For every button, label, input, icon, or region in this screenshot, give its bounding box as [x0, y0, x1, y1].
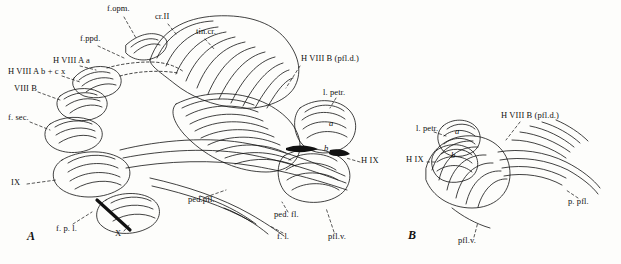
label-f-sec: f. sec. — [8, 113, 29, 122]
label-tin-cr: tin.cr. — [196, 27, 216, 36]
label-b-sublobule-panel-b: b — [451, 151, 455, 160]
label-ped-fl: ped. fl. — [274, 210, 299, 219]
label-ix-panel-a: IX — [11, 178, 20, 187]
label-x-panel-a: X — [115, 229, 121, 238]
label-l-petr-panel-b: l. petr. — [416, 124, 438, 133]
label-h-viii-b-pfl-d-panel-a: H VIII B (pfl.d.) — [301, 54, 359, 63]
label-h-viii-b-pfl-d-panel-b: H VIII B (pfl.d.) — [501, 111, 559, 120]
label-h-ix-panel-b: H IX — [406, 155, 424, 164]
label-h-viii-a-a: H VIII A a — [53, 56, 90, 65]
label-a-sublobule-panel-a: a — [329, 119, 333, 128]
label-ped-pfl: ped.pfl. — [188, 195, 215, 204]
label-a-sublobule-panel-b: a — [455, 127, 459, 136]
label-l-petr-panel-a: l. petr. — [323, 88, 345, 97]
label-h-viii-a-bcx: H VIII A b + c x — [8, 67, 65, 76]
label-viii-b: VIII B — [14, 84, 37, 93]
label-pfl-v-panel-a: pfl.v. — [328, 232, 346, 241]
label-b-sublobule-panel-a: b — [324, 144, 328, 153]
panel-label-b: B — [408, 229, 416, 241]
label-f-opm: f.opm. — [107, 4, 130, 13]
label-f-ppd: f.ppd. — [80, 34, 100, 43]
panel-label-a: A — [27, 230, 35, 242]
label-p-pfl: p. pfl. — [568, 197, 589, 206]
label-f-l: f. l. — [277, 232, 289, 241]
label-f-p-l: f. p. l. — [56, 224, 77, 233]
label-cr-ii: cr.II — [155, 12, 169, 21]
label-pfl-v-panel-b: pfl.v. — [458, 236, 476, 245]
figure-canvas: f.opm. cr.II tin.cr. f.ppd. H VIII A a H… — [0, 0, 621, 264]
label-h-ix-panel-a: H IX — [361, 156, 379, 165]
